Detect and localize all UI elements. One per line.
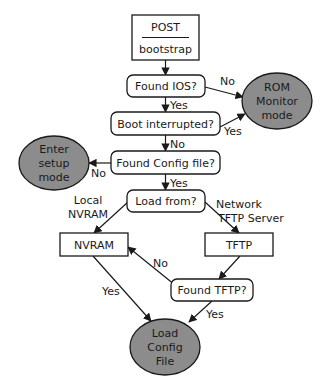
flowchart-canvas: POSTbootstrapFound IOS?ROMMonitormodeBoo… — [0, 0, 324, 389]
edge-label: Yes — [223, 125, 242, 138]
node-label: File — [156, 355, 175, 368]
node-post: POSTbootstrap — [132, 15, 199, 60]
node-label: Enter — [39, 143, 69, 156]
edge-found-ios-to-rom-monitor — [205, 87, 243, 97]
node-found-ios: Found IOS? — [127, 75, 205, 97]
node-nvram: NVRAM — [60, 233, 128, 256]
node-label: mode — [261, 109, 292, 122]
node-found-config: Found Config file? — [111, 151, 220, 174]
edge-label: No — [153, 257, 168, 270]
edge-label: No — [220, 75, 235, 88]
node-label: setup — [39, 157, 70, 170]
node-enter-setup: Entersetupmode — [19, 136, 89, 190]
node-label: NVRAM — [74, 239, 114, 252]
ios-boot-flowchart: POSTbootstrapFound IOS?ROMMonitormodeBoo… — [0, 0, 324, 389]
node-label: bootstrap — [139, 43, 192, 56]
node-label: Found IOS? — [135, 80, 197, 93]
node-label: Load from? — [135, 195, 196, 208]
edge-label: Yes — [169, 99, 188, 112]
node-label: Found TFTP? — [177, 284, 246, 297]
node-label: TFTP — [225, 239, 253, 252]
node-label: Load — [152, 327, 178, 340]
node-found-tftp: Found TFTP? — [171, 279, 253, 301]
node-label: ROM — [264, 81, 290, 94]
node-label: Found Config file? — [116, 157, 215, 170]
node-label: POST — [151, 21, 180, 34]
edge-label: Yes — [101, 285, 120, 298]
node-label: Config — [147, 341, 182, 354]
edge-label: NetworkTFTP Server — [216, 198, 284, 225]
edge-label: Yes — [169, 177, 188, 190]
edge-label: No — [170, 138, 185, 151]
edge-label: LocalNVRAM — [68, 194, 108, 221]
node-label: mode — [38, 171, 69, 184]
edge-label: No — [91, 167, 106, 180]
edge-tftp-to-found-tftp — [219, 256, 240, 279]
node-tftp: TFTP — [205, 233, 273, 256]
edge-label: Yes — [205, 308, 224, 321]
node-boot-interrupted: Boot interrupted? — [111, 112, 220, 135]
node-label: Boot interrupted? — [117, 118, 214, 131]
node-rom-monitor: ROMMonitormode — [242, 73, 312, 129]
node-label: Monitor — [256, 95, 298, 108]
node-load-config: LoadConfigFile — [130, 319, 200, 375]
node-load-from: Load from? — [127, 190, 205, 212]
